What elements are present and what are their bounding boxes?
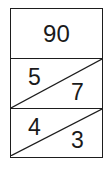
cell-bottom-upper-left-value: 4 — [28, 116, 41, 139]
table-row-top: 90 — [11, 9, 102, 58]
cell-top: 90 — [11, 9, 102, 58]
cell-top-value: 90 — [11, 22, 102, 46]
table-row-middle: 5 7 — [11, 58, 102, 108]
table-row-bottom: 4 3 — [11, 108, 102, 156]
cell-middle: 5 7 — [11, 59, 102, 108]
cell-middle-lower-right-value: 7 — [71, 81, 84, 104]
cell-middle-upper-left-value: 5 — [28, 66, 41, 89]
number-table-figure: 90 5 7 4 3 — [0, 0, 112, 170]
cell-bottom-lower-right-value: 3 — [71, 129, 84, 152]
number-table: 90 5 7 4 3 — [10, 8, 103, 158]
cell-bottom: 4 3 — [11, 109, 102, 156]
diagonal-line-icon-middle — [11, 59, 102, 108]
diagonal-line-icon-bottom — [11, 109, 102, 156]
